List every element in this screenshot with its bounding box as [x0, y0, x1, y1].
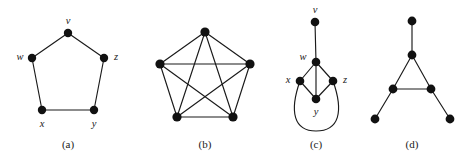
graph-vertex-d-t — [408, 17, 417, 26]
graph-vertex-b-n1 — [200, 27, 209, 36]
graph-vertex-c-z — [329, 77, 338, 86]
graph-vertex-b-n2 — [155, 59, 164, 68]
graph-vertex-label-c-y: y — [313, 106, 319, 117]
graph-edge-b-n3-n5 — [233, 64, 250, 117]
graph-vertex-c-x — [296, 77, 305, 86]
graph-vertex-c-v — [311, 18, 320, 27]
graph-vertex-d-br — [427, 85, 436, 94]
graph-vertex-label-a-w: w — [16, 51, 23, 62]
graph-vertex-b-n5 — [228, 112, 237, 121]
graph-vertex-a-z — [100, 54, 108, 62]
graph-vertex-label-a-y: y — [91, 118, 97, 129]
graph-vertex-a-w — [28, 54, 36, 62]
graph-vertex-label-a-v: v — [66, 15, 71, 26]
graph-edge-a-w-x — [32, 58, 42, 110]
graph-vertex-a-x — [38, 106, 46, 114]
graph-vertex-label-a-x: x — [39, 118, 45, 129]
graph-edge-b-n3-n4 — [177, 64, 250, 117]
graph-edge-b-n1-n2 — [160, 32, 205, 64]
graph-vertex-label-a-z: z — [113, 51, 118, 62]
graph-edge-d-br-pr — [431, 89, 450, 119]
graph-edge-b-n2-n4 — [160, 64, 177, 117]
graph-edge-b-n1-n5 — [205, 32, 233, 117]
graph-vertex-b-n3 — [245, 59, 254, 68]
graph-edge-d-bl-pl — [375, 89, 393, 119]
graph-vertex-d-bl — [389, 85, 398, 94]
graph-edge-a-v-z — [68, 33, 104, 58]
graph-edge-c-v-w — [315, 22, 316, 62]
graph-panel-b: (b) — [155, 27, 254, 151]
panel-caption-a: (a) — [62, 138, 75, 151]
graph-vertex-label-c-w: w — [299, 51, 306, 62]
graph-edge-b-n1-n3 — [205, 32, 250, 64]
graph-panel-c: vwxzy(c) — [285, 4, 347, 151]
graph-edge-a-v-w — [32, 33, 68, 58]
graph-vertex-d-pr — [446, 115, 455, 124]
graph-edge-b-n2-n5 — [160, 64, 233, 117]
graph-vertex-a-y — [90, 106, 98, 114]
graph-vertex-d-ap — [408, 51, 417, 60]
graph-edge-d-ap-br — [412, 55, 431, 89]
graph-vertex-c-w — [312, 58, 321, 67]
graph-edge-b-n1-n4 — [177, 32, 205, 117]
graph-vertex-label-c-v: v — [313, 4, 318, 15]
graph-figure: vwzxy(a)(b)vwxzy(c)(d) — [0, 0, 468, 165]
graph-vertex-a-v — [64, 29, 72, 37]
graph-edge-d-ap-bl — [393, 55, 412, 89]
graph-panel-a: vwzxy(a) — [16, 15, 118, 151]
panel-caption-c: (c) — [310, 138, 323, 151]
panel-caption-b: (b) — [199, 138, 212, 151]
graph-vertex-label-c-z: z — [342, 74, 347, 85]
graph-vertex-d-pl — [371, 115, 380, 124]
graph-vertex-c-y — [312, 95, 321, 104]
panel-caption-d: (d) — [406, 138, 419, 151]
graph-vertex-label-c-x: x — [285, 74, 291, 85]
graph-panel-d: (d) — [371, 17, 455, 151]
graph-figure-canvas: vwzxy(a)(b)vwxzy(c)(d) — [0, 0, 468, 165]
graph-edge-a-z-y — [94, 58, 104, 110]
graph-vertex-b-n4 — [172, 112, 181, 121]
